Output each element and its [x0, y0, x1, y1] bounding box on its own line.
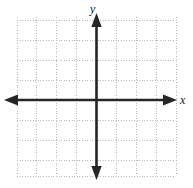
x-axis-arrow-right-icon [163, 95, 177, 106]
coordinate-plane-figure: x y [0, 0, 193, 188]
y-axis-arrow-down-icon [91, 166, 101, 180]
x-axis-label: x [180, 94, 185, 106]
x-axis-arrow-left-icon [4, 95, 18, 106]
y-axis-label: y [90, 3, 95, 15]
y-axis [91, 13, 101, 180]
x-axis [4, 95, 177, 106]
coordinate-plane-svg [0, 0, 193, 188]
